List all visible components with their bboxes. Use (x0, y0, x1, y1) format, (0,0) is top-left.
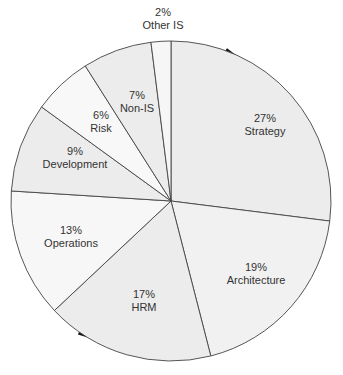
pie-chart (0, 0, 343, 375)
slice-category: Risk (90, 122, 111, 135)
slice-category: Other IS (143, 19, 184, 32)
slice-category: Operations (44, 237, 98, 250)
slice-percent: 2% (143, 6, 184, 19)
slice-label-non-is: 7%Non-IS (120, 89, 154, 115)
slice-percent: 13% (44, 224, 98, 237)
slice-label-architecture: 19%Architecture (227, 261, 286, 287)
slice-category: Non-IS (120, 102, 154, 115)
slice-category: HRM (131, 301, 156, 314)
slice-label-operations: 13%Operations (44, 224, 98, 250)
slice-label-hrm: 17%HRM (131, 288, 156, 314)
slice-label-other-is: 2%Other IS (143, 6, 184, 32)
slice-category: Strategy (245, 125, 286, 138)
slice-percent: 7% (120, 89, 154, 102)
slice-label-development: 9%Development (43, 145, 108, 171)
slice-category: Development (43, 158, 108, 171)
slice-label-strategy: 27%Strategy (245, 112, 286, 138)
slice-percent: 17% (131, 288, 156, 301)
slice-percent: 27% (245, 112, 286, 125)
slice-percent: 9% (43, 145, 108, 158)
slice-label-risk: 6%Risk (90, 109, 111, 135)
slice-percent: 19% (227, 261, 286, 274)
slice-percent: 6% (90, 109, 111, 122)
slice-category: Architecture (227, 274, 286, 287)
